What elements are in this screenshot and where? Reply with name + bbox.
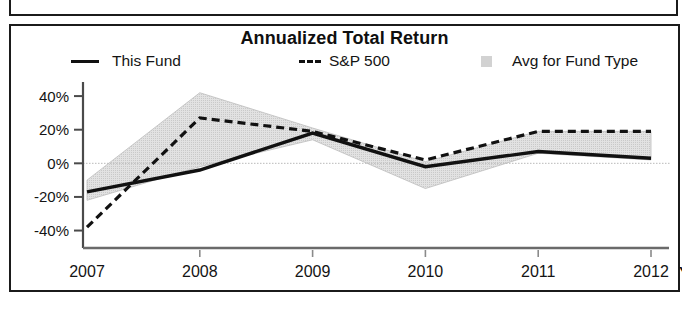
solid-line-swatch-icon xyxy=(71,60,99,63)
legend-label-avg-for-fund-type: Avg for Fund Type xyxy=(512,52,638,70)
x-axis-ytd-label: YTD xyxy=(679,263,682,280)
preceding-panel-bottom-edge xyxy=(9,0,678,16)
legend-item-sp500: S&P 500 xyxy=(299,52,390,70)
y-axis-tick-labels: 40%20%0%-20%-40% xyxy=(34,88,69,239)
dashed-line-swatch-icon xyxy=(299,60,321,63)
legend-item-this-fund: This Fund xyxy=(71,52,181,70)
y-tick-label: -40% xyxy=(34,222,69,239)
x-axis-tick-labels: 200720082009201020112012YTD xyxy=(69,263,682,280)
annualized-total-return-chart-panel: Annualized Total Return This Fund S&P 50… xyxy=(9,24,680,292)
x-tick-label: 2009 xyxy=(295,263,331,280)
x-tick-label: 2008 xyxy=(182,263,218,280)
chart-legend: This Fund S&P 500 Avg for Fund Type xyxy=(11,52,678,78)
x-tick-label: 2007 xyxy=(69,263,105,280)
x-tick-label: 2012 xyxy=(633,263,669,280)
y-tick-label: 0% xyxy=(47,155,69,172)
chart-plot-area: 40%20%0%-20%-40% 20072008200920102011201… xyxy=(11,76,682,292)
legend-item-avg-for-fund-type: Avg for Fund Type xyxy=(481,52,638,70)
y-tick-label: 20% xyxy=(39,121,69,138)
shaded-band-swatch-icon xyxy=(481,56,492,67)
x-tick-label: 2010 xyxy=(408,263,444,280)
legend-label-sp500: S&P 500 xyxy=(329,52,390,70)
legend-label-this-fund: This Fund xyxy=(112,52,181,70)
y-tick-label: -20% xyxy=(34,188,69,205)
y-tick-label: 40% xyxy=(39,88,69,105)
x-tick-label: 2011 xyxy=(521,263,556,280)
chart-title: Annualized Total Return xyxy=(11,28,678,49)
